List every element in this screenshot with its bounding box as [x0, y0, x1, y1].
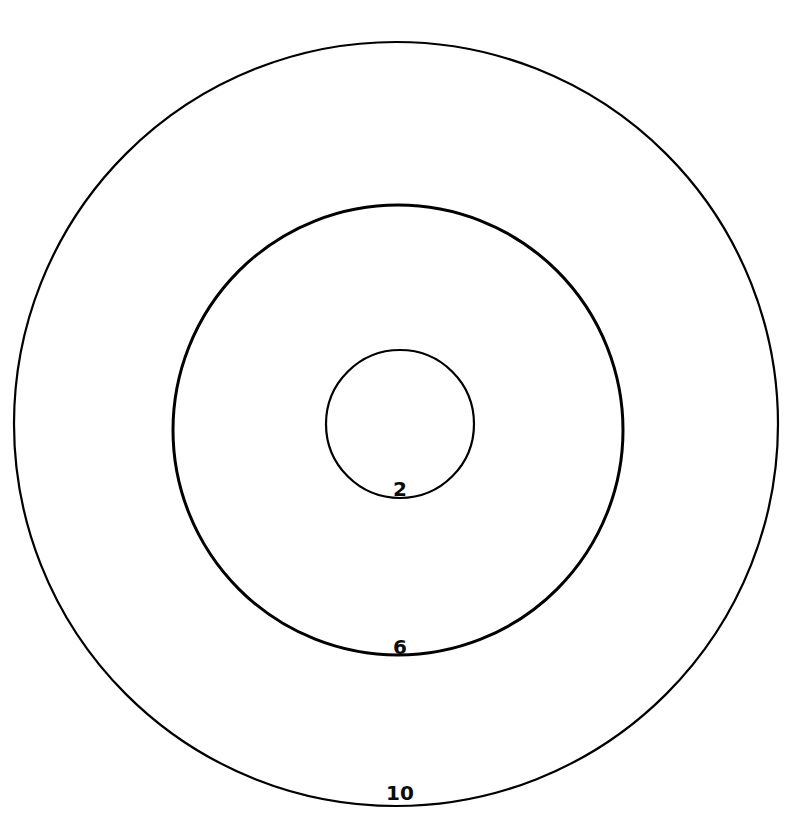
radius-label-middle: 6	[393, 635, 407, 659]
radius-label-outer: 10	[386, 781, 414, 805]
background-rect	[0, 0, 791, 838]
diagram-canvas: 2 6 10	[0, 0, 791, 838]
concentric-circles-figure: 2 6 10	[0, 0, 791, 838]
radius-label-inner: 2	[393, 477, 407, 501]
